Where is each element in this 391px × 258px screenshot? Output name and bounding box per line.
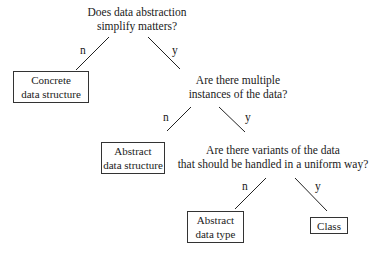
result-abstract-data-type: Abstract data type <box>187 211 244 243</box>
question-line: simplify matters? <box>88 19 187 33</box>
box-line: Abstract <box>102 144 164 158</box>
question-data-abstraction: Does data abstraction simplify matters? <box>88 5 187 33</box>
edge-q2-ads <box>167 107 191 131</box>
question-line: Are there multiple <box>189 73 288 87</box>
box-line: data structure <box>14 87 88 101</box>
question-line: Are there variants of the data <box>178 143 369 157</box>
box-line: Abstract <box>188 213 243 227</box>
result-concrete-data-structure: Concrete data structure <box>13 71 89 103</box>
edge-label-yes: y <box>245 111 251 123</box>
question-variants-uniform: Are there variants of the data that shou… <box>178 143 369 171</box>
result-abstract-data-structure: Abstract data structure <box>101 142 165 174</box>
edge-label-no: n <box>163 111 169 123</box>
result-class: Class <box>310 217 348 234</box>
question-multiple-instances: Are there multiple instances of the data… <box>189 73 288 101</box>
edge-q3-class <box>295 178 327 211</box>
edge-q3-adt <box>235 178 266 209</box>
edge-label-yes: y <box>172 44 178 56</box>
box-line: data type <box>188 227 243 241</box>
question-line: instances of the data? <box>189 87 288 101</box>
box-line: Class <box>311 219 347 233</box>
box-line: Concrete <box>14 73 88 87</box>
edge-q2-q3 <box>219 107 245 132</box>
question-line: Does data abstraction <box>88 5 187 19</box>
edge-label-no: n <box>242 180 248 192</box>
question-line: that should be handled in a uniform way? <box>178 157 369 171</box>
edge-label-yes: y <box>315 180 321 192</box>
edge-label-no: n <box>80 44 86 56</box>
box-line: data structure <box>102 158 164 172</box>
